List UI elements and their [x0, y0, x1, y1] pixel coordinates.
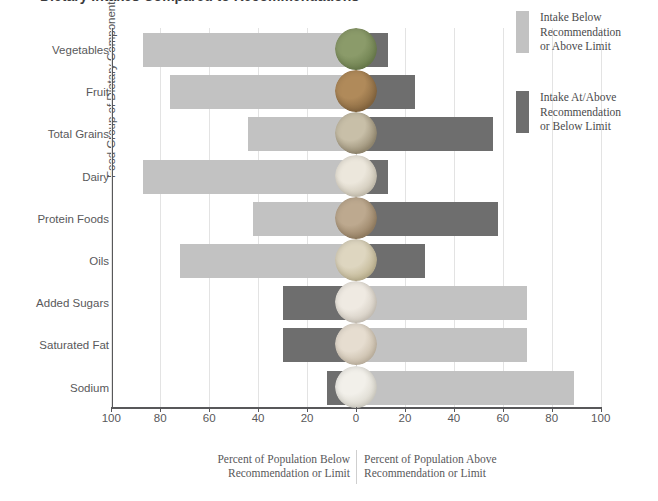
x-tick-label-8: 60	[483, 412, 523, 424]
caption-above: Percent of Population Above Recommendati…	[364, 452, 576, 480]
x-tick-label-2: 60	[189, 412, 229, 424]
bar-row: Added Sugars	[111, 282, 601, 324]
caption-above-line1: Percent of Population Above	[364, 452, 576, 466]
caption-divider	[356, 450, 357, 484]
legend-below-line3: or Above Limit	[540, 39, 658, 54]
bar-below-dairy	[143, 160, 356, 194]
dairy-icon	[335, 155, 377, 197]
chart-container: Dietary Intakes Compared to Recommendati…	[0, 0, 658, 501]
bar-above-protein-foods	[356, 202, 498, 236]
legend-above-line3: or Below Limit	[540, 119, 658, 134]
category-label-oils: Oils	[0, 240, 109, 282]
x-tick-label-6: 20	[385, 412, 425, 424]
x-tick-label-3: 40	[238, 412, 278, 424]
x-tick-label-7: 40	[434, 412, 474, 424]
legend-text-below: Intake Below Recommendation or Above Lim…	[540, 10, 658, 54]
fruit-icon	[335, 70, 377, 112]
x-tick-label-4: 20	[287, 412, 327, 424]
bar-row: Sodium	[111, 367, 601, 409]
bar-above-saturated-fat	[356, 328, 527, 362]
legend-swatch-dark	[516, 91, 529, 133]
added-sugars-icon	[335, 281, 377, 323]
x-tick-label-9: 80	[532, 412, 572, 424]
category-label-fruit: Fruit	[0, 71, 109, 113]
chart-title: Dietary Intakes Compared to Recommendati…	[40, 0, 359, 4]
legend-above-line2: Recommendation	[540, 105, 658, 120]
bar-below-fruit	[170, 75, 356, 109]
bar-row: Saturated Fat	[111, 324, 601, 366]
caption-above-line2: Recommendation or Limit	[364, 466, 576, 480]
vegetables-icon	[335, 28, 377, 70]
legend-text-above: Intake At/Above Recommendation or Below …	[540, 90, 658, 134]
oils-icon	[335, 239, 377, 281]
bar-row: Protein Foods	[111, 198, 601, 240]
caption-below-line2: Recommendation or Limit	[138, 466, 350, 480]
caption-below: Percent of Population Below Recommendati…	[138, 452, 350, 480]
legend-above-line1: Intake At/Above	[540, 90, 658, 105]
legend-below-line1: Intake Below	[540, 10, 658, 25]
bar-below-vegetables	[143, 33, 356, 67]
x-tick-label-1: 80	[140, 412, 180, 424]
x-tick-label-0: 100	[91, 412, 131, 424]
sodium-icon	[335, 366, 377, 408]
category-label-added-sugars: Added Sugars	[0, 282, 109, 324]
bar-above-added-sugars	[356, 286, 527, 320]
bar-row: Oils	[111, 240, 601, 282]
bar-below-oils	[180, 244, 356, 278]
legend-item-above: Intake At/Above Recommendation or Below …	[516, 90, 658, 142]
category-label-dairy: Dairy	[0, 156, 109, 198]
legend: Intake Below Recommendation or Above Lim…	[516, 10, 658, 170]
category-label-saturated-fat: Saturated Fat	[0, 324, 109, 366]
legend-item-below: Intake Below Recommendation or Above Lim…	[516, 10, 658, 62]
category-label-total-grains: Total Grains	[0, 113, 109, 155]
legend-swatch-light	[516, 11, 529, 53]
x-tick-label-10: 100	[581, 412, 621, 424]
category-label-vegetables: Vegetables	[0, 29, 109, 71]
category-label-sodium: Sodium	[0, 367, 109, 409]
category-label-protein-foods: Protein Foods	[0, 198, 109, 240]
legend-below-line2: Recommendation	[540, 25, 658, 40]
caption-below-line1: Percent of Population Below	[138, 452, 350, 466]
x-tick-label-5: 0	[336, 412, 376, 424]
protein-foods-icon	[335, 197, 377, 239]
bar-above-sodium	[356, 371, 574, 405]
